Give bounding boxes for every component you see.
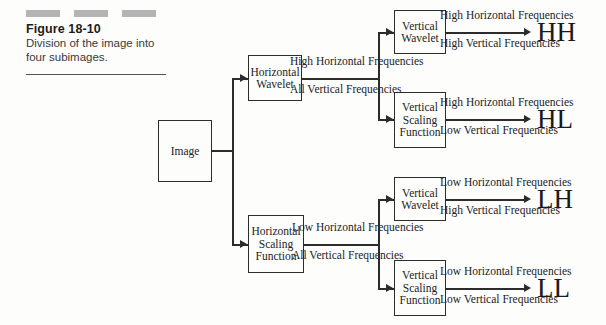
stage2-label-vertical-scaling-hl: Vertical Scaling Function: [395, 101, 445, 139]
stage1-freq-lower-1: All Vertical Frequencies: [292, 249, 382, 262]
dash-bar-2: [74, 10, 108, 17]
stage2-label-vertical-wavelet-lh: Vertical Wavelet: [395, 187, 445, 212]
connector-split-trunk-stage1: [232, 78, 234, 245]
caption-divider: [26, 74, 166, 75]
stage2-freq-upper-lh: Low Horizontal Frequencies: [440, 176, 536, 189]
connector-ll-out: [446, 288, 528, 290]
stage1-freq-upper-0: High Horizontal Frequencies: [290, 55, 380, 68]
arrow-hw-to-vertical-scaling: [386, 115, 393, 123]
arrow-to-horizontal-wavelet: [240, 74, 247, 82]
result-label-lh: LH: [537, 186, 573, 213]
stage1-freq-upper-1: Low Horizontal Frequencies: [292, 221, 382, 234]
image-source-box: Image: [158, 120, 212, 182]
arrow-lh-result: [524, 195, 531, 203]
stage2-box-vertical-wavelet-lh: Vertical Wavelet: [394, 177, 446, 221]
stage2-freq-upper-hh: High Horizontal Frequencies: [440, 9, 536, 22]
arrow-hh-result: [524, 28, 531, 36]
connector-hsf-out: [304, 244, 380, 246]
stage2-freq-lower-ll: Low Vertical Frequencies: [440, 293, 536, 306]
stage2-freq-lower-lh: High Vertical Frequencies: [440, 204, 536, 217]
connector-split-trunk-hw: [378, 32, 380, 120]
stage2-freq-upper-ll: Low Horizontal Frequencies: [440, 265, 536, 278]
figure-page: Figure 18-10 Division of the image into …: [0, 0, 606, 325]
stage2-box-vertical-wavelet-hh: Vertical Wavelet: [394, 10, 446, 54]
connector-split-trunk-hsf: [378, 199, 380, 289]
arrow-hl-result: [524, 115, 531, 123]
arrow-to-horizontal-scaling: [240, 240, 247, 248]
figure-description: Division of the image into four subimage…: [26, 37, 166, 64]
connector-lh-out: [446, 199, 528, 201]
result-label-hh: HH: [537, 19, 576, 46]
decorative-dash-row: [26, 10, 176, 17]
stage2-label-vertical-scaling-ll: Vertical Scaling Function: [395, 269, 445, 307]
stage1-freq-lower-0: All Vertical Frequencies: [290, 83, 380, 96]
stage2-freq-lower-hl: Low Vertical Frequencies: [440, 124, 536, 137]
arrow-ll-result: [524, 284, 531, 292]
connector-hh-out: [446, 32, 528, 34]
stage2-label-vertical-wavelet-hh: Vertical Wavelet: [395, 20, 445, 45]
stage2-freq-lower-hh: High Vertical Frequencies: [440, 37, 536, 50]
result-label-hl: HL: [537, 106, 573, 133]
stage2-box-vertical-scaling-ll: Vertical Scaling Function: [394, 260, 446, 316]
stage2-freq-upper-hl: High Horizontal Frequencies: [440, 96, 536, 109]
result-label-ll: LL: [537, 275, 570, 302]
arrow-hw-to-vertical-wavelet: [386, 28, 393, 36]
connector-hl-out: [446, 119, 528, 121]
stage2-box-vertical-scaling-hl: Vertical Scaling Function: [394, 92, 446, 148]
figure-caption-block: Figure 18-10 Division of the image into …: [26, 10, 176, 64]
arrow-hsf-to-vertical-scaling: [386, 284, 393, 292]
connector-source-out: [212, 150, 234, 152]
connector-hw-out: [302, 78, 380, 80]
figure-number: Figure 18-10: [26, 22, 176, 36]
dash-bar-3: [122, 10, 156, 17]
image-source-label: Image: [171, 145, 200, 158]
arrow-hsf-to-vertical-wavelet: [386, 195, 393, 203]
dash-bar-1: [26, 10, 60, 17]
